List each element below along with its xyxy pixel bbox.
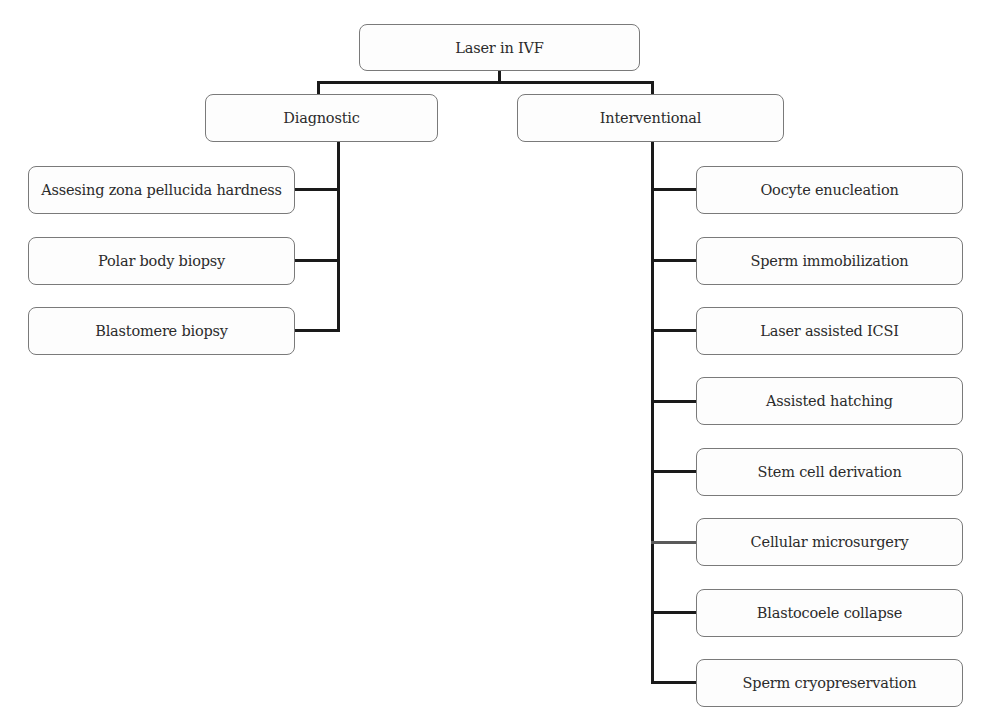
diagnostic-child-node: Blastomere biopsy xyxy=(28,307,295,355)
branch-label-interventional: Interventional xyxy=(600,110,702,126)
connector-interventional-child-8 xyxy=(651,681,696,684)
diagnostic-child-node: Polar body biopsy xyxy=(28,237,295,285)
diagnostic-child-node: Assesing zona pellucida hardness xyxy=(28,166,295,214)
connector-root-horizontal xyxy=(317,81,654,84)
connector-to-interventional xyxy=(651,81,654,94)
interventional-child-label: Sperm immobilization xyxy=(751,253,909,269)
interventional-child-label: Cellular microsurgery xyxy=(751,534,909,550)
interventional-child-label: Sperm cryopreservation xyxy=(743,675,917,691)
diagnostic-child-label: Polar body biopsy xyxy=(98,253,225,269)
interventional-child-label: Assisted hatching xyxy=(766,393,893,409)
interventional-child-label: Stem cell derivation xyxy=(757,464,901,480)
laser-ivf-tree-diagram: Laser in IVF Diagnostic Interventional A… xyxy=(0,0,990,726)
connector-interventional-child-5 xyxy=(651,470,696,473)
connector-interventional-child-3 xyxy=(651,329,696,332)
connector-diagnostic-child-1 xyxy=(295,188,340,191)
connector-interventional-child-4 xyxy=(651,400,696,403)
branch-node-interventional: Interventional xyxy=(517,94,784,142)
connector-interventional-child-6 xyxy=(651,541,696,544)
root-label: Laser in IVF xyxy=(455,40,543,56)
interventional-child-node: Sperm cryopreservation xyxy=(696,659,963,707)
interventional-child-node: Oocyte enucleation xyxy=(696,166,963,214)
interventional-child-node: Laser assisted ICSI xyxy=(696,307,963,355)
interventional-child-label: Laser assisted ICSI xyxy=(760,323,898,339)
interventional-child-node: Blastocoele collapse xyxy=(696,589,963,637)
connector-diagnostic-trunk xyxy=(337,142,340,332)
connector-interventional-child-2 xyxy=(651,259,696,262)
interventional-child-label: Blastocoele collapse xyxy=(757,605,902,621)
root-node: Laser in IVF xyxy=(359,24,640,71)
interventional-child-node: Cellular microsurgery xyxy=(696,518,963,566)
interventional-child-label: Oocyte enucleation xyxy=(760,182,898,198)
branch-label-diagnostic: Diagnostic xyxy=(283,110,359,126)
connector-interventional-child-1 xyxy=(651,188,696,191)
connector-diagnostic-child-3 xyxy=(295,329,340,332)
connector-interventional-child-7 xyxy=(651,611,696,614)
diagnostic-child-label: Blastomere biopsy xyxy=(95,323,228,339)
interventional-child-node: Stem cell derivation xyxy=(696,448,963,496)
connector-interventional-trunk xyxy=(651,142,654,684)
connector-diagnostic-child-2 xyxy=(295,259,340,262)
diagnostic-child-label: Assesing zona pellucida hardness xyxy=(41,182,282,198)
interventional-child-node: Sperm immobilization xyxy=(696,237,963,285)
interventional-child-node: Assisted hatching xyxy=(696,377,963,425)
connector-to-diagnostic xyxy=(317,81,320,94)
branch-node-diagnostic: Diagnostic xyxy=(205,94,438,142)
